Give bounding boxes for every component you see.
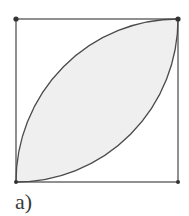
vertex-top-right <box>175 16 180 21</box>
square-lens-diagram <box>0 0 189 216</box>
shaded-lens-region <box>16 19 178 182</box>
figure-caption: a) <box>15 190 32 214</box>
vertex-bottom-left <box>14 180 18 184</box>
vertex-top-left <box>13 16 18 21</box>
vertex-bottom-right <box>176 180 180 184</box>
geometry-figure: a) <box>0 0 189 216</box>
